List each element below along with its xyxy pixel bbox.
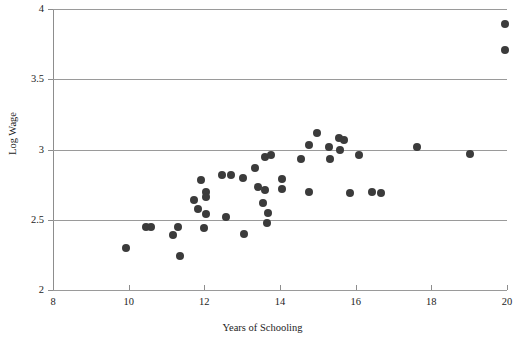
data-point — [466, 150, 474, 158]
x-axis-label: Years of Schooling — [0, 322, 525, 333]
data-point — [278, 175, 286, 183]
y-tick-label: 2.5 — [31, 215, 44, 225]
y-tick-label: 2 — [39, 285, 44, 295]
x-tick-label-wrap: 14 — [265, 296, 295, 308]
data-point — [297, 155, 305, 163]
y-tick-label: 3.5 — [31, 74, 44, 84]
data-point — [340, 136, 348, 144]
y-tick-label-wrap: 2 — [0, 285, 44, 295]
x-tick-label: 8 — [38, 296, 68, 308]
data-point — [264, 209, 272, 217]
data-point — [240, 230, 248, 238]
x-tick-label: 10 — [114, 296, 144, 308]
data-point — [305, 141, 313, 149]
data-point — [267, 151, 275, 159]
data-point — [176, 252, 184, 260]
x-tick-label: 20 — [492, 296, 522, 308]
data-point — [202, 193, 210, 201]
data-point — [122, 244, 130, 252]
x-tick-mark — [507, 285, 508, 290]
data-point — [263, 219, 271, 227]
data-point — [346, 189, 354, 197]
data-point — [501, 20, 509, 28]
data-point — [202, 210, 210, 218]
data-point — [305, 188, 313, 196]
data-point — [174, 223, 182, 231]
data-point — [227, 171, 235, 179]
data-point — [377, 189, 385, 197]
data-point — [169, 231, 177, 239]
y-tick-label-wrap: 2.5 — [0, 215, 44, 225]
data-point — [251, 164, 259, 172]
gridline-y — [53, 290, 507, 291]
x-tick-label-wrap: 12 — [189, 296, 219, 308]
x-tick-label-wrap: 10 — [114, 296, 144, 308]
x-tick-label: 12 — [189, 296, 219, 308]
y-tick-label: 4 — [39, 4, 44, 14]
data-point — [239, 174, 247, 182]
data-point — [326, 155, 334, 163]
x-tick-label-wrap: 20 — [492, 296, 522, 308]
plot-area — [53, 9, 507, 290]
x-tick-label-wrap: 8 — [38, 296, 68, 308]
x-tick-label: 14 — [265, 296, 295, 308]
x-tick-label: 18 — [416, 296, 446, 308]
data-point — [194, 205, 202, 213]
data-point — [261, 186, 269, 194]
data-point — [501, 46, 509, 54]
data-point — [218, 171, 226, 179]
data-point — [368, 188, 376, 196]
y-tick-label-wrap: 4 — [0, 4, 44, 14]
data-point — [413, 143, 421, 151]
scatter-plot-figure: 22.533.54 8101214161820 Years of Schooli… — [0, 0, 525, 345]
data-point — [259, 199, 267, 207]
data-point — [355, 151, 363, 159]
data-point — [313, 129, 321, 137]
data-point — [197, 176, 205, 184]
data-point — [222, 213, 230, 221]
x-tick-label-wrap: 18 — [416, 296, 446, 308]
y-axis-label: Log Wage — [7, 89, 18, 179]
data-point — [147, 223, 155, 231]
x-tick-label: 16 — [341, 296, 371, 308]
x-tick-label-wrap: 16 — [341, 296, 371, 308]
y-tick-label-wrap: 3.5 — [0, 74, 44, 84]
data-point — [278, 185, 286, 193]
y-tick-mark — [48, 290, 53, 291]
data-point — [200, 224, 208, 232]
data-point — [325, 143, 333, 151]
data-point — [190, 196, 198, 204]
data-point — [336, 146, 344, 154]
y-tick-label: 3 — [39, 145, 44, 155]
